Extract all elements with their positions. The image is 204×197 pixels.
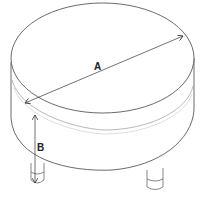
leg-right (147, 168, 163, 190)
leg-left (31, 163, 44, 183)
ottoman-top (11, 3, 194, 113)
ottoman-drawing: A B (0, 0, 204, 197)
dimension-b-label: B (37, 142, 44, 153)
dimension-a-label: A (94, 61, 101, 72)
